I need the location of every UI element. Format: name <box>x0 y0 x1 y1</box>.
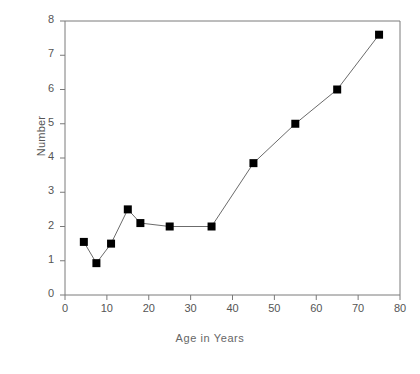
plot-canvas <box>0 0 420 374</box>
data-line <box>84 35 379 263</box>
y-tick-label: 0 <box>32 287 54 299</box>
x-tick-marks <box>65 295 400 300</box>
x-axis-title: Age in Years <box>0 332 420 344</box>
x-tick-label: 60 <box>301 302 331 314</box>
x-tick-label: 0 <box>50 302 80 314</box>
x-tick-label: 70 <box>343 302 373 314</box>
y-tick-marks <box>60 21 65 295</box>
y-tick-label: 5 <box>32 116 54 128</box>
chart-figure: Number Age in Years 012345678 0102030405… <box>0 0 420 374</box>
y-tick-label: 2 <box>32 219 54 231</box>
y-tick-label: 7 <box>32 47 54 59</box>
x-tick-label: 40 <box>218 302 248 314</box>
x-tick-label: 10 <box>92 302 122 314</box>
x-tick-label: 80 <box>385 302 415 314</box>
y-tick-label: 4 <box>32 150 54 162</box>
y-tick-label: 1 <box>32 253 54 265</box>
data-markers <box>80 31 383 267</box>
x-tick-label: 20 <box>134 302 164 314</box>
plot-frame <box>65 21 400 295</box>
y-tick-label: 8 <box>32 13 54 25</box>
x-tick-label: 50 <box>259 302 289 314</box>
x-tick-label: 30 <box>176 302 206 314</box>
y-tick-label: 3 <box>32 184 54 196</box>
y-tick-label: 6 <box>32 82 54 94</box>
